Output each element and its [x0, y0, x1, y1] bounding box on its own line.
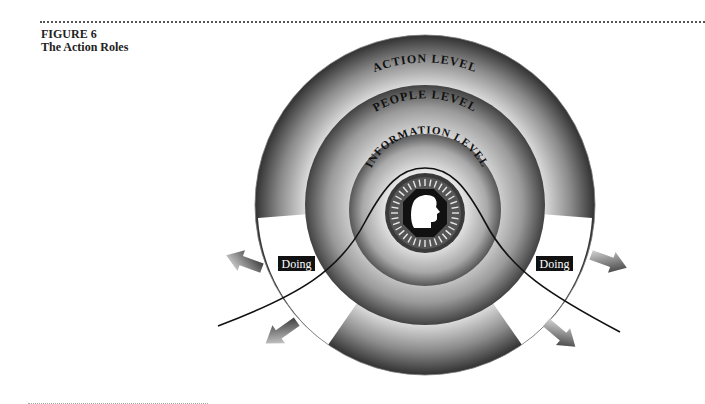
arrow-upper-left-icon [222, 245, 265, 279]
arrow-lower-left-icon [259, 313, 303, 353]
action-roles-diagram: ACTION LEVEL PEOPLE LEVEL INFORMATION LE… [0, 0, 705, 404]
center-hub [385, 173, 465, 253]
svg-text:Doing: Doing [282, 257, 312, 271]
doing-label-right: Doing [536, 256, 573, 271]
svg-text:Doing: Doing [540, 257, 570, 271]
arrow-upper-right-icon [587, 245, 630, 279]
doing-label-left: Doing [278, 256, 315, 271]
